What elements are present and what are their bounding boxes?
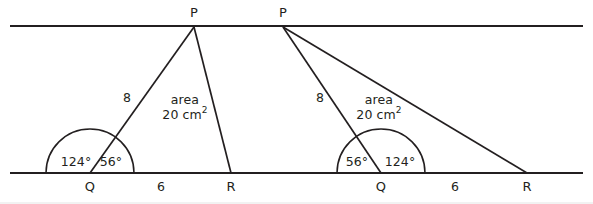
left-triangle-apex-label: P: [190, 6, 198, 21]
right-triangle-side-length-label: 8: [316, 91, 324, 105]
right-triangle-interior-angle-label: 56°: [346, 155, 368, 169]
right-triangle-exterior-angle-label: 124°: [385, 155, 416, 169]
left-triangle-base-length-label: 6: [157, 180, 165, 194]
left-triangle-area-value-line: 20 cm2: [162, 108, 207, 122]
left-triangle-exterior-angle-label: 124°: [61, 155, 92, 169]
figure-canvas: [0, 0, 593, 204]
left-triangle-area-exponent: 2: [202, 105, 208, 115]
left-triangle-area-caption: area: [171, 92, 199, 107]
left-triangle-interior-angle-label: 56°: [100, 155, 122, 169]
right-triangle-area-caption: area: [365, 92, 393, 107]
left-triangle-area-value: 20 cm: [162, 107, 201, 122]
right-triangle-area-exponent: 2: [396, 105, 402, 115]
right-triangle-area-value-line: 20 cm2: [356, 108, 401, 122]
right-triangle-base-length-label: 6: [451, 180, 459, 194]
left-triangle-vertex-q-label: Q: [85, 180, 95, 195]
left-triangle-vertex-r-label: R: [226, 180, 235, 195]
right-triangle-vertex-r-label: R: [522, 180, 531, 195]
geometry-figure: P Q R 8 6 124° 56° area 20 cm2 P Q R 8 6…: [0, 0, 593, 204]
left-triangle-area-label: area 20 cm2: [162, 93, 207, 122]
right-triangle-apex-label: P: [279, 6, 287, 21]
right-triangle-area-value: 20 cm: [356, 107, 395, 122]
right-triangle-area-label: area 20 cm2: [356, 93, 401, 122]
right-triangle-vertex-q-label: Q: [376, 180, 386, 195]
left-triangle-side-length-label: 8: [123, 91, 131, 105]
figure-bottom-edge: [0, 202, 593, 204]
